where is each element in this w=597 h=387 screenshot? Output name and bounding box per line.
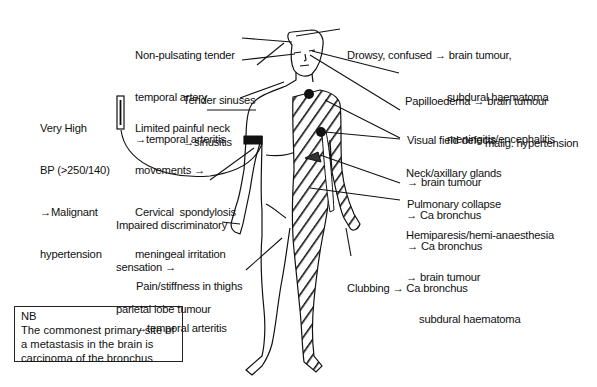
label-line: BP (>250/140) <box>40 163 110 177</box>
label-blood-pressure: Very High BP (>250/140) →Malignant hyper… <box>40 93 110 275</box>
label-line: Clubbing → Ca bronchus <box>347 281 468 295</box>
label-line: Limited painful neck <box>135 121 236 135</box>
note-heading: NB <box>21 309 182 323</box>
label-line: →Malignant <box>40 205 110 219</box>
label-line: Hemiparesis/hemi-anaesthesia <box>406 228 554 242</box>
lymph-node-dot <box>316 127 326 137</box>
label-line: Drowsy, confused → brain tumour, <box>347 48 555 62</box>
label-line: Very High <box>40 121 110 135</box>
label-line: hypertension <box>40 247 110 261</box>
label-line: subdural haematoma <box>406 312 554 326</box>
lymph-node-dot <box>304 89 314 99</box>
note-line: The commonest primary site of <box>21 323 182 337</box>
label-line: movements → <box>135 163 236 177</box>
label-line: Pain/stiffness in thighs <box>136 279 242 293</box>
label-clubbing: Clubbing → Ca bronchus <box>347 253 468 309</box>
note-box: NB The commonest primary site of a metas… <box>14 306 183 362</box>
label-line: Impaired discriminatory <box>116 218 227 232</box>
note-line: carcinoma of the bronchus <box>21 351 182 365</box>
note-line: a metastasis in the brain is <box>21 337 182 351</box>
label-line: Non-pulsating tender <box>135 48 235 62</box>
